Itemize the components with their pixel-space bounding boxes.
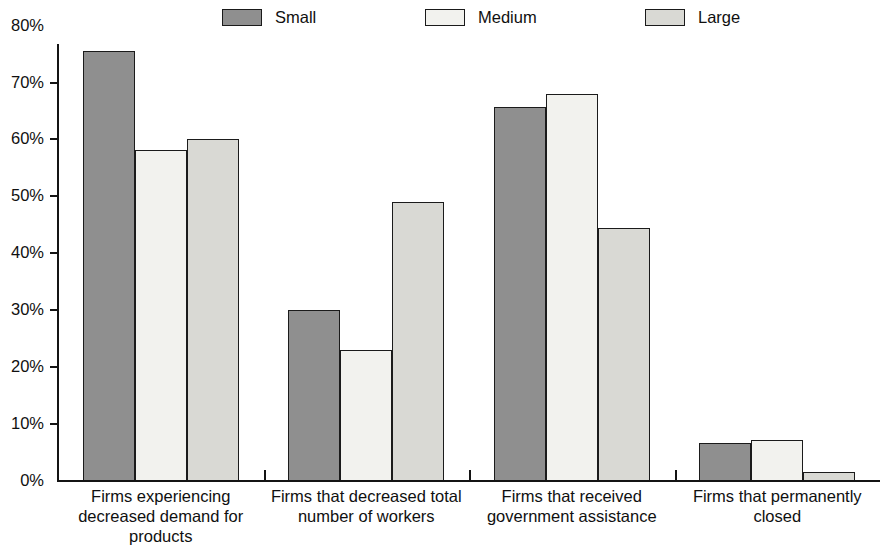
category-label-line: products — [58, 526, 264, 546]
category-label-line: closed — [675, 506, 881, 526]
bar-medium-group-3 — [546, 94, 598, 481]
bar-small-group-1 — [83, 51, 135, 481]
category-label-line: Firms experiencing — [58, 486, 264, 506]
bar-small-group-3 — [494, 107, 546, 481]
category-label-line: Firms that decreased total — [264, 486, 470, 506]
bar-small-group-4 — [699, 443, 751, 481]
bar-large-group-1 — [187, 139, 239, 481]
bar-medium-group-2 — [340, 350, 392, 481]
bar-large-group-2 — [392, 202, 444, 481]
category-label-line: Firms that permanently — [675, 486, 881, 506]
x-axis-tick — [469, 470, 471, 481]
category-label-line: number of workers — [264, 506, 470, 526]
x-axis-category-label: Firms that permanentlyclosed — [675, 486, 881, 526]
bar-large-group-3 — [598, 228, 650, 481]
x-axis-category-label: Firms experiencingdecreased demand forpr… — [58, 486, 264, 546]
x-axis-tick — [264, 470, 266, 481]
category-label-line: decreased demand for — [58, 506, 264, 526]
category-label-line: Firms that received — [469, 486, 675, 506]
x-axis-tick — [675, 470, 677, 481]
x-axis-category-label: Firms that receivedgovernment assistance — [469, 486, 675, 526]
category-label-line: government assistance — [469, 506, 675, 526]
bar-medium-group-4 — [751, 440, 803, 482]
x-axis-category-label: Firms that decreased totalnumber of work… — [264, 486, 470, 526]
bar-small-group-2 — [288, 310, 340, 481]
bar-chart-plot: 80%70%60%50%40%30%20%10%0% Firms experie… — [0, 0, 882, 549]
bars-layer — [0, 0, 882, 481]
bar-medium-group-1 — [135, 150, 187, 481]
